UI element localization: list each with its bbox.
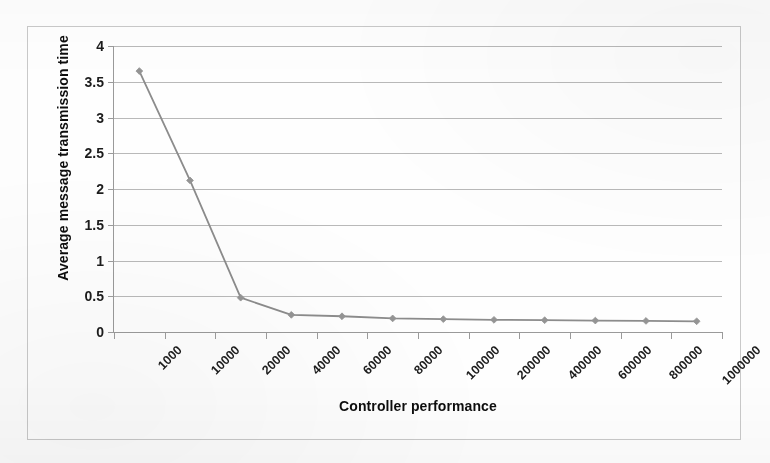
gridline — [114, 225, 722, 226]
x-axis-tick-mark — [671, 333, 672, 339]
x-axis-tick-mark — [722, 333, 723, 339]
gridline — [114, 189, 722, 190]
y-axis-tick-labels: 00.511.522.533.54 — [42, 0, 104, 463]
x-axis-tick-mark — [165, 333, 166, 339]
y-axis-tick-label: 4 — [44, 39, 104, 53]
plot-area — [114, 46, 722, 332]
y-axis-title: Average message transmission time — [55, 33, 71, 283]
gridline — [114, 296, 722, 297]
y-axis-tick-label: 3 — [44, 111, 104, 125]
y-axis-tick-mark — [108, 118, 114, 119]
gridline — [114, 118, 722, 119]
x-axis-tick-mark — [215, 333, 216, 339]
y-axis-tick-mark — [108, 46, 114, 47]
gridline — [114, 82, 722, 83]
x-axis-tick-mark — [418, 333, 419, 339]
y-axis-tick-mark — [108, 153, 114, 154]
y-axis-tick-mark — [108, 82, 114, 83]
y-axis-tick-label: 2.5 — [44, 146, 104, 160]
y-axis-tick-mark — [108, 189, 114, 190]
x-axis-tick-mark — [317, 333, 318, 339]
y-axis-tick-label: 1 — [44, 254, 104, 268]
x-axis-tick-mark — [367, 333, 368, 339]
gridline — [114, 153, 722, 154]
y-axis-tick-mark — [108, 296, 114, 297]
y-axis-tick-mark — [108, 225, 114, 226]
gridline — [114, 261, 722, 262]
x-axis-tick-mark — [114, 333, 115, 339]
y-axis-tick-label: 0.5 — [44, 289, 104, 303]
y-axis-tick-mark — [108, 261, 114, 262]
scanned-page: 00.511.522.533.54 Average message transm… — [0, 0, 770, 463]
x-axis-tick-mark — [469, 333, 470, 339]
y-axis-tick-label: 3.5 — [44, 75, 104, 89]
gridline — [114, 46, 722, 47]
x-axis-title: Controller performance — [114, 398, 722, 414]
y-axis-tick-label: 0 — [44, 325, 104, 339]
y-axis-tick-label: 1.5 — [44, 218, 104, 232]
x-axis-tick-mark — [570, 333, 571, 339]
x-axis-tick-mark — [621, 333, 622, 339]
y-axis-tick-label: 2 — [44, 182, 104, 196]
x-axis-tick-mark — [266, 333, 267, 339]
x-axis-tick-mark — [519, 333, 520, 339]
